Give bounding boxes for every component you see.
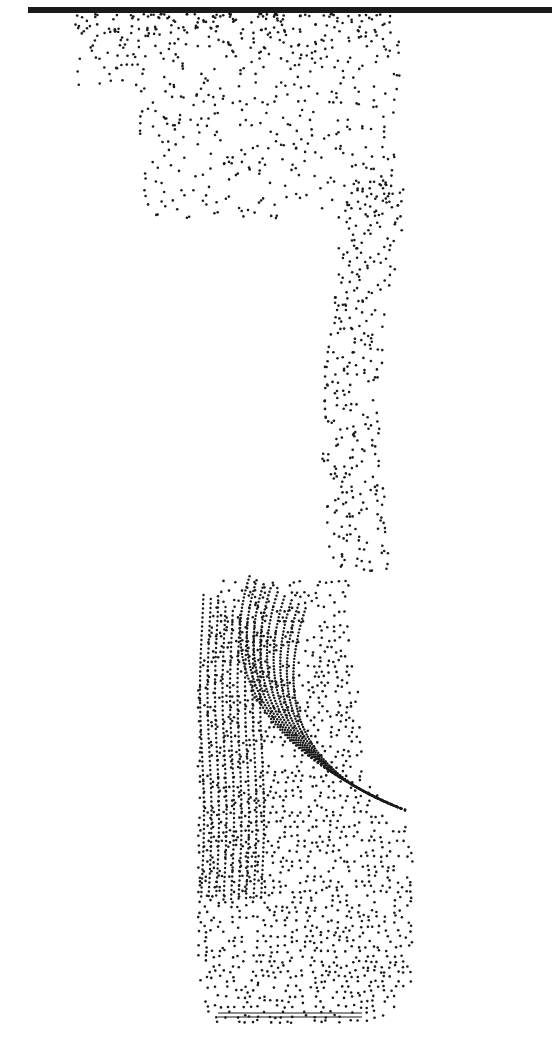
plume-dot-figure <box>0 0 557 1041</box>
particle-dots <box>74 13 414 1024</box>
ceiling-line <box>28 7 552 13</box>
source-bar <box>218 1013 362 1017</box>
